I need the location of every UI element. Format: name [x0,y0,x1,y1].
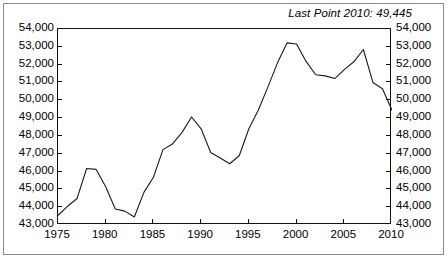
y-tick-mark-right [386,64,390,65]
y-tick-mark-left [58,81,62,82]
y-tick-label-left: 47,000 [19,147,54,159]
y-tick-label-right: 45,000 [396,182,431,194]
y-tick-label-right: 49,000 [396,111,431,123]
y-tick-label-right: 46,000 [396,165,431,177]
y-tick-mark-left [58,188,62,189]
y-tick-label-left: 52,000 [19,58,54,70]
y-tick-label-right: 53,000 [396,40,431,52]
y-tick-label-right: 48,000 [396,129,431,141]
x-tick-mark [296,219,297,223]
x-tick-label: 2005 [330,229,356,241]
y-tick-label-left: 54,000 [19,22,54,34]
y-tick-mark-right [386,171,390,172]
y-tick-label-right: 44,000 [396,200,431,212]
y-tick-mark-right [386,135,390,136]
y-tick-mark-left [58,99,62,100]
y-tick-mark-right [386,117,390,118]
x-tick-mark [248,219,249,223]
y-tick-mark-left [58,46,62,47]
y-tick-label-left: 51,000 [19,75,54,87]
y-tick-mark-left [58,153,62,154]
series-line-chart [58,29,392,225]
y-tick-mark-right [386,206,390,207]
x-tick-mark [152,219,153,223]
y-tick-label-right: 52,000 [396,58,431,70]
y-tick-label-left: 48,000 [19,129,54,141]
y-tick-mark-left [58,64,62,65]
y-tick-label-right: 50,000 [396,93,431,105]
y-tick-label-left: 46,000 [19,165,54,177]
y-tick-mark-left [58,171,62,172]
x-tick-label: 1990 [187,229,213,241]
last-point-annotation: Last Point 2010: 49,445 [288,7,412,19]
x-tick-mark [343,219,344,223]
y-tick-mark-right [386,99,390,100]
y-tick-mark-right [386,46,390,47]
y-tick-label-left: 44,000 [19,200,54,212]
plot-area [57,28,391,224]
y-tick-label-right: 54,000 [396,22,431,34]
y-tick-label-left: 50,000 [19,93,54,105]
y-tick-label-left: 49,000 [19,111,54,123]
y-tick-label-left: 45,000 [19,182,54,194]
y-tick-label-left: 53,000 [19,40,54,52]
x-tick-label: 1985 [140,229,166,241]
series-1-line [58,43,392,217]
y-tick-mark-left [58,135,62,136]
x-tick-label: 2010 [378,229,404,241]
y-tick-mark-right [386,153,390,154]
y-tick-label-right: 51,000 [396,75,431,87]
y-tick-mark-left [58,117,62,118]
y-tick-mark-right [386,81,390,82]
y-tick-label-right: 47,000 [396,147,431,159]
x-tick-mark [200,219,201,223]
x-tick-label: 2000 [283,229,309,241]
x-tick-label: 1995 [235,229,261,241]
y-tick-mark-right [386,188,390,189]
x-tick-label: 1980 [92,229,118,241]
y-tick-mark-left [58,206,62,207]
x-tick-mark [105,219,106,223]
x-tick-label: 1975 [44,229,70,241]
chart-figure: Last Point 2010: 49,445 43,00044,00045,0… [0,0,448,259]
